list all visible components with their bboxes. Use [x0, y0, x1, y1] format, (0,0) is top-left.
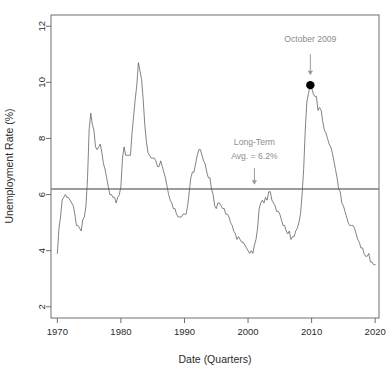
- x-tick-label: 2020: [365, 326, 386, 337]
- series-polyline: [57, 63, 375, 265]
- x-tick-label: 1990: [174, 326, 195, 337]
- y-tick-label: 12: [37, 21, 48, 32]
- unemployment-rate-chart-figure: 24681012 197019801990200020102020 Long-T…: [0, 0, 391, 371]
- x-tick-label: 2000: [237, 326, 258, 337]
- y-tick-label: 2: [37, 304, 48, 309]
- chart-canvas: 24681012 197019801990200020102020 Long-T…: [0, 0, 391, 371]
- y-tick-label: 10: [37, 77, 48, 88]
- x-tick-label: 2010: [301, 326, 322, 337]
- y-tick-label: 6: [37, 192, 48, 197]
- x-tick-label: 1980: [110, 326, 131, 337]
- long-term-avg-label-line1: Long-Term: [234, 137, 275, 147]
- y-tick-label: 4: [37, 248, 48, 253]
- plot-frame-box: [51, 15, 379, 318]
- x-axis-title: Date (Quarters): [179, 353, 252, 365]
- long-term-avg-arrow-head: [252, 180, 257, 185]
- y-axis-title: Unemployment Rate (%): [3, 109, 15, 224]
- peak-annotation-label: October 2009: [284, 34, 336, 44]
- x-axis: 197019801990200020102020: [47, 318, 386, 337]
- peak-highlight-dot: [306, 81, 314, 89]
- peak-annotation-arrow-head: [308, 71, 313, 76]
- long-term-avg-label-line2: Avg. = 6.2%: [231, 151, 278, 161]
- x-tick-label: 1970: [47, 326, 68, 337]
- y-axis: 24681012: [37, 21, 52, 309]
- y-tick-label: 8: [37, 136, 48, 141]
- unemployment-rate-series: [57, 63, 375, 265]
